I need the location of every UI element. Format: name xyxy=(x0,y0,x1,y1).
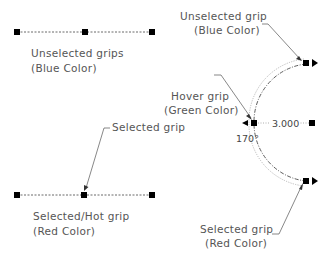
selected-hot-grip-label: Selected/Hot grip xyxy=(33,210,130,222)
selected-arc-grip-icon[interactable] xyxy=(303,178,309,184)
selected-grip-callout: Selected grip xyxy=(112,121,185,133)
hover-grip-icon[interactable] xyxy=(251,120,257,126)
grip-square-icon[interactable] xyxy=(149,29,155,35)
grip-square-icon[interactable] xyxy=(14,29,20,35)
unselected-grips-label: Unselected grips xyxy=(31,47,124,59)
grip-square-icon[interactable] xyxy=(81,192,87,198)
center-grip-icon[interactable] xyxy=(309,120,315,126)
selected-arc-grip-leader xyxy=(272,185,302,234)
grip-square-icon[interactable] xyxy=(14,192,20,198)
triangle-left-grip-icon[interactable] xyxy=(242,120,248,126)
arrowhead-icon xyxy=(246,114,252,120)
triangle-right-grip-icon[interactable] xyxy=(312,177,318,185)
arrowhead-icon xyxy=(299,183,303,190)
unselected-arc-grip-icon[interactable] xyxy=(303,60,309,66)
selected-arc-grip-callout-line1: Selected grip xyxy=(200,223,273,235)
grip-diagram: Unselected grips (Blue Color) Selected g… xyxy=(0,0,331,257)
unselected-grip-leader xyxy=(262,24,300,59)
selected-hot-grip-color-label: (Red Color) xyxy=(33,225,95,237)
selected-grip-leader xyxy=(86,128,110,188)
hover-grip-callout-line2: (Green Color) xyxy=(164,104,239,116)
arrowhead-icon xyxy=(84,185,89,191)
unselected-grips-color-label: (Blue Color) xyxy=(31,62,97,74)
grip-square-icon[interactable] xyxy=(149,192,155,198)
unselected-grip-callout-line1: Unselected grip xyxy=(180,10,267,22)
hover-grip-callout-line1: Hover grip xyxy=(171,90,229,102)
selected-arc-grip-callout-line2: (Red Color) xyxy=(205,237,267,249)
angle-dimension-value: 170° xyxy=(236,133,259,144)
unselected-line-group: Unselected grips (Blue Color) xyxy=(14,29,155,74)
selected-line-group: Selected grip Selected/Hot grip (Red Col… xyxy=(14,121,185,237)
unselected-grip-callout-line2: (Blue Color) xyxy=(194,24,260,36)
radius-dimension-value: 3.000 xyxy=(272,118,299,129)
grip-square-icon[interactable] xyxy=(82,29,88,35)
triangle-right-grip-icon[interactable] xyxy=(312,59,318,67)
arc-group: 3.000 170° Unselected grip (Blue Color) … xyxy=(164,10,318,249)
